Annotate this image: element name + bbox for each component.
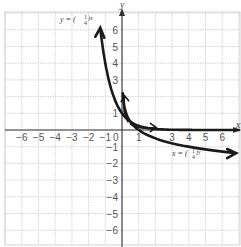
x-tick-label: 3: [169, 132, 175, 143]
y-tick-label: −3: [107, 175, 119, 186]
y-tick-label: −4: [107, 192, 119, 203]
y-tick-label: 1: [112, 108, 118, 119]
equation-label-x: x = ( 1 4 )y: [171, 148, 201, 160]
x-tick-label: −5: [33, 132, 45, 143]
x-tick-label: 5: [203, 132, 209, 143]
x-tick-label: −3: [66, 132, 78, 143]
x-tick-label: 6: [219, 132, 225, 143]
y-tick-label: 3: [112, 75, 118, 86]
x-tick-label: −2: [83, 132, 95, 143]
eq1-exp: )x: [87, 15, 93, 22]
eq1-main: y = (: [59, 15, 77, 24]
y-tick-label: −6: [107, 225, 119, 236]
y-axis-label: y: [119, 0, 125, 10]
exponential-graph: x y −6−5−4−3−2−11345665431−1−2−3−4−5−6 0…: [0, 0, 241, 247]
eq1-den: 4: [84, 20, 87, 26]
x-tick-label: 1: [136, 132, 142, 143]
x-axis-label: x: [235, 119, 241, 130]
y-tick-label: −1: [107, 142, 119, 153]
y-tick-label: −2: [107, 158, 119, 169]
eq2-den: 4: [192, 154, 195, 160]
eq2-exp: )y: [195, 149, 201, 156]
y-tick-label: 6: [112, 25, 118, 36]
y-tick-label: 5: [112, 42, 118, 53]
x-tick-label: −4: [49, 132, 61, 143]
eq2-main: x = (: [171, 149, 189, 158]
x-tick-label: 4: [186, 132, 192, 143]
curve-y-quarter-pow-x: [100, 29, 239, 130]
origin-label: 0: [113, 132, 119, 143]
x-tick-label: −6: [16, 132, 28, 143]
y-tick-label: 4: [112, 58, 118, 69]
equation-label-y: y = ( 1 4 )x: [59, 14, 93, 26]
y-tick-label: −5: [107, 209, 119, 220]
curve-x-quarter-pow-y: [123, 93, 234, 153]
